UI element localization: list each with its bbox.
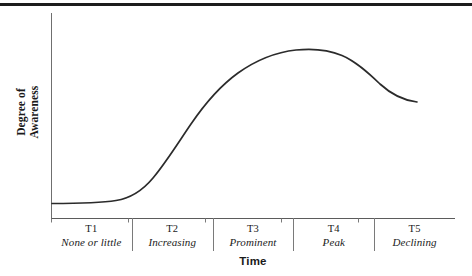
x-tick-period-3: T3 Prominent (213, 219, 294, 253)
x-tick-description-2: Increasing (148, 235, 196, 249)
x-tick-code-4: T4 (328, 222, 340, 235)
awareness-curve-path (52, 49, 417, 203)
x-tick-period-5: T5 Declining (374, 219, 455, 253)
y-axis-title-line-2: Awareness (28, 86, 42, 139)
x-tick-code-3: T3 (247, 222, 259, 235)
x-tick-code-2: T2 (166, 222, 178, 235)
chart-figure: Degree of Awareness T1 None or little T2… (0, 0, 472, 276)
x-tick-description-4: Peak (323, 235, 345, 249)
x-tick-period-1: T1 None or little (51, 219, 132, 253)
x-tick-code-5: T5 (409, 222, 421, 235)
x-axis-period-labels: T1 None or little T2 Increasing T3 Promi… (51, 219, 455, 253)
x-tick-period-2: T2 Increasing (132, 219, 213, 253)
y-axis-title-line-1: Degree of (15, 88, 29, 136)
x-axis-title: Time (51, 255, 455, 267)
top-rule-divider (0, 3, 472, 6)
x-tick-code-1: T1 (85, 222, 97, 235)
x-tick-description-1: None or little (61, 235, 121, 249)
y-axis-title: Degree of Awareness (2, 32, 54, 192)
x-tick-description-5: Declining (392, 235, 436, 249)
x-tick-period-4: T4 Peak (293, 219, 374, 253)
x-tick-description-3: Prominent (230, 235, 277, 249)
